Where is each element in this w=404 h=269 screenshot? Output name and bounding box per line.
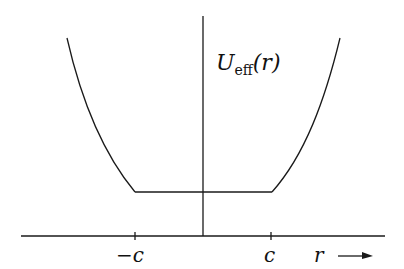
- tick-label-minus-c: −c: [116, 243, 144, 267]
- left-rising-curve: [67, 38, 135, 192]
- x-axis-label: r: [314, 243, 325, 267]
- arrow-right-icon: [338, 252, 373, 259]
- effective-potential-diagram: Ueff(r) −c c r: [0, 0, 404, 269]
- right-rising-curve: [272, 38, 340, 192]
- y-axis-label: Ueff(r): [216, 50, 280, 78]
- tick-label-c: c: [264, 243, 275, 267]
